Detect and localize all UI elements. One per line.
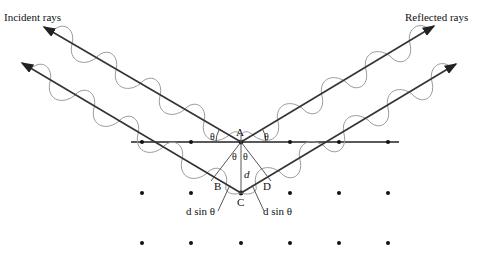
point-b-label: B (214, 180, 221, 192)
theta-right-label: θ (264, 131, 269, 142)
point-c-label: C (237, 196, 244, 208)
path-diff-right-label: d sin θ (263, 205, 292, 217)
incident-ray-upper (44, 27, 241, 142)
theta-left-label: θ (210, 131, 215, 142)
theta-inner-right-label: θ (243, 151, 248, 162)
path-diff-left-label: d sin θ (186, 205, 215, 217)
spacing-d-label: d (244, 168, 250, 180)
theta-inner-left-label: θ (232, 151, 237, 162)
reflected-ray-upper (241, 26, 434, 142)
bragg-diffraction-diagram: Incident rays Reflected rays A B C D d θ… (0, 0, 478, 257)
incident-rays-label: Incident rays (4, 11, 61, 23)
reflected-rays-label: Reflected rays (405, 11, 468, 23)
point-d-label: D (263, 180, 271, 192)
point-a-label: A (236, 126, 244, 138)
reflected-ray-lower (241, 64, 456, 193)
incident-ray-lower (22, 63, 241, 193)
